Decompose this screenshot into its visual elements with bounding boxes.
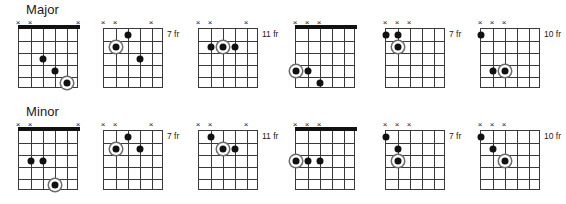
fret-line bbox=[104, 77, 162, 78]
finger-dot bbox=[208, 44, 215, 51]
fret-line bbox=[199, 65, 257, 66]
minor-voicing-3[interactable]: ×××11 fr bbox=[198, 120, 288, 200]
minor-voicing-5[interactable]: ×××7 fr bbox=[385, 120, 475, 200]
fretboard-grid bbox=[103, 130, 163, 190]
fret-line bbox=[481, 167, 539, 168]
muted-strings-row: ××× bbox=[103, 120, 165, 129]
finger-dot bbox=[305, 68, 312, 75]
fret-line bbox=[19, 143, 77, 144]
fretboard-grid bbox=[18, 130, 78, 190]
fret-position-label: 7 fr bbox=[449, 29, 461, 39]
fret-line bbox=[19, 41, 77, 42]
string-line bbox=[505, 29, 506, 87]
major-row-label: Major bbox=[26, 2, 59, 17]
string-line bbox=[223, 29, 224, 87]
fret-line bbox=[104, 53, 162, 54]
fret-line bbox=[481, 179, 539, 180]
finger-dot bbox=[137, 56, 144, 63]
fret-line bbox=[104, 143, 162, 144]
fret-line bbox=[296, 179, 354, 180]
finger-dot bbox=[125, 32, 132, 39]
string-line bbox=[434, 29, 435, 87]
string-line bbox=[344, 29, 345, 87]
muted-string-x-icon: × bbox=[383, 18, 388, 27]
major-voicing-2[interactable]: ×××7 fr bbox=[103, 18, 193, 98]
minor-voicing-4[interactable]: ××× bbox=[295, 120, 385, 200]
fret-line bbox=[386, 77, 444, 78]
nut-bar bbox=[295, 127, 357, 131]
string-line bbox=[422, 29, 423, 87]
string-line bbox=[332, 131, 333, 189]
finger-dot bbox=[232, 146, 239, 153]
root-finger-dot bbox=[502, 68, 509, 75]
muted-string-x-icon: × bbox=[407, 18, 412, 27]
root-finger-dot bbox=[113, 44, 120, 51]
fret-line bbox=[19, 53, 77, 54]
string-line bbox=[344, 131, 345, 189]
finger-dot bbox=[125, 134, 132, 141]
root-finger-dot bbox=[220, 146, 227, 153]
fret-line bbox=[199, 167, 257, 168]
fret-line bbox=[19, 77, 77, 78]
fret-line bbox=[104, 155, 162, 156]
finger-dot bbox=[383, 134, 390, 141]
fret-line bbox=[199, 179, 257, 180]
fret-line bbox=[199, 53, 257, 54]
muted-string-x-icon: × bbox=[101, 18, 106, 27]
fret-line bbox=[481, 53, 539, 54]
fretboard-grid bbox=[198, 130, 258, 190]
major-voicing-6[interactable]: ×××10 fr bbox=[480, 18, 566, 98]
fret-position-label: 10 fr bbox=[544, 29, 561, 39]
fretboard-grid bbox=[18, 28, 78, 88]
fretboard-grid bbox=[480, 28, 540, 88]
string-line bbox=[517, 29, 518, 87]
muted-strings-row: ××× bbox=[480, 18, 542, 27]
minor-row-label: Minor bbox=[26, 104, 59, 119]
fret-line bbox=[386, 143, 444, 144]
fret-line bbox=[19, 179, 77, 180]
major-voicing-5[interactable]: ×××7 fr bbox=[385, 18, 475, 98]
muted-strings-row: ××× bbox=[198, 18, 260, 27]
major-voicing-3[interactable]: ×××11 fr bbox=[198, 18, 288, 98]
string-line bbox=[223, 131, 224, 189]
major-voicing-1[interactable]: ××× bbox=[18, 18, 108, 98]
fret-position-label: 10 fr bbox=[544, 131, 561, 141]
fretboard-grid bbox=[385, 130, 445, 190]
minor-voicing-2[interactable]: ×××7 fr bbox=[103, 120, 193, 200]
minor-voicing-1[interactable]: ××× bbox=[18, 120, 108, 200]
muted-string-x-icon: × bbox=[490, 18, 495, 27]
string-line bbox=[152, 131, 153, 189]
string-line bbox=[320, 29, 321, 87]
minor-voicing-6[interactable]: ×××10 fr bbox=[480, 120, 566, 200]
fret-line bbox=[296, 167, 354, 168]
finger-dot bbox=[305, 158, 312, 165]
string-line bbox=[152, 29, 153, 87]
fret-line bbox=[19, 167, 77, 168]
fret-line bbox=[386, 53, 444, 54]
root-finger-dot bbox=[220, 44, 227, 51]
fret-line bbox=[199, 41, 257, 42]
nut-bar bbox=[18, 127, 80, 131]
muted-string-x-icon: × bbox=[244, 120, 249, 129]
muted-strings-row: ××× bbox=[480, 120, 542, 129]
fretboard-grid bbox=[103, 28, 163, 88]
finger-dot bbox=[395, 146, 402, 153]
fret-position-label: 7 fr bbox=[167, 29, 179, 39]
major-row: Major××××××7 fr×××11 fr××××××7 fr×××10 f… bbox=[0, 0, 558, 102]
fret-line bbox=[481, 65, 539, 66]
fret-line bbox=[296, 77, 354, 78]
fret-line bbox=[19, 65, 77, 66]
fretboard-grid bbox=[295, 130, 355, 190]
fret-position-label: 11 fr bbox=[262, 131, 278, 141]
muted-strings-row: ××× bbox=[385, 120, 447, 129]
muted-string-x-icon: × bbox=[502, 18, 507, 27]
major-voicing-4[interactable]: ××× bbox=[295, 18, 385, 98]
finger-dot bbox=[478, 134, 485, 141]
finger-dot bbox=[317, 158, 324, 165]
string-line bbox=[31, 29, 32, 87]
muted-string-x-icon: × bbox=[196, 18, 201, 27]
root-finger-dot bbox=[395, 44, 402, 51]
finger-dot bbox=[383, 32, 390, 39]
fret-line bbox=[386, 179, 444, 180]
